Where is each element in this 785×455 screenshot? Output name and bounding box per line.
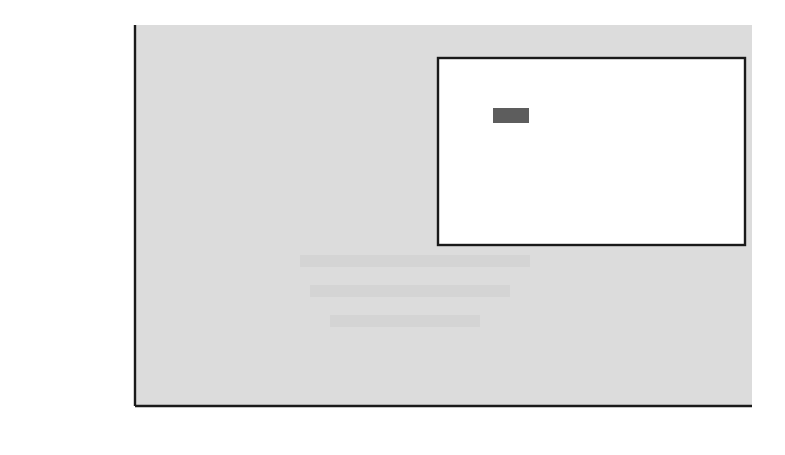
legend-swatch-aged-19-plus bbox=[493, 108, 529, 123]
pertussis-incidence-figure bbox=[0, 0, 785, 455]
inset-plot-background bbox=[438, 58, 745, 245]
inset-legend bbox=[493, 108, 529, 123]
chart-svg bbox=[0, 0, 785, 455]
inset-chart bbox=[438, 58, 745, 245]
